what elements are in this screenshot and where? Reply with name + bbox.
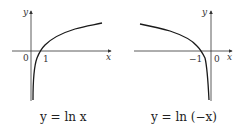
origin-label: 0 <box>214 54 220 64</box>
graph-ln-neg-x: y x −1 0 <box>134 7 232 101</box>
x-axis-label: x <box>227 52 232 62</box>
origin-label: 0 <box>23 53 29 63</box>
x-axis-label: x <box>106 52 111 62</box>
root-label: 1 <box>43 54 49 64</box>
y-axis-label: y <box>22 7 29 17</box>
root-label: −1 <box>189 54 202 64</box>
graph-ln-x: y x 0 1 <box>12 7 111 101</box>
caption-ln-x: y = ln x <box>40 110 87 124</box>
caption-ln-neg-x: y = ln (−x) <box>151 110 217 124</box>
y-axis-label: y <box>201 7 208 17</box>
